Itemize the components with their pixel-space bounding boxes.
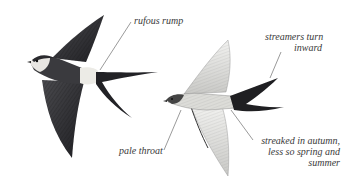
label-line: less so spring and (256, 146, 340, 157)
label-streaked: streaked in autumn, less so spring and s… (256, 135, 340, 168)
label-pale-throat: pale throat (119, 145, 163, 156)
label-line: inward (265, 42, 323, 53)
dark-swallow-figure (27, 15, 158, 158)
label-line: streamers turn (265, 31, 323, 42)
leader-line-streamers (270, 52, 281, 78)
label-streamers-turn-inward: streamers turn inward (265, 31, 323, 53)
label-rufous-rump: rufous rump (134, 15, 183, 26)
leader-line-rump (100, 22, 131, 70)
label-line: streaked in autumn, (256, 135, 340, 146)
label-line: summer (256, 157, 340, 168)
leader-line-streaked (231, 110, 253, 140)
leader-line-throat (164, 110, 181, 150)
